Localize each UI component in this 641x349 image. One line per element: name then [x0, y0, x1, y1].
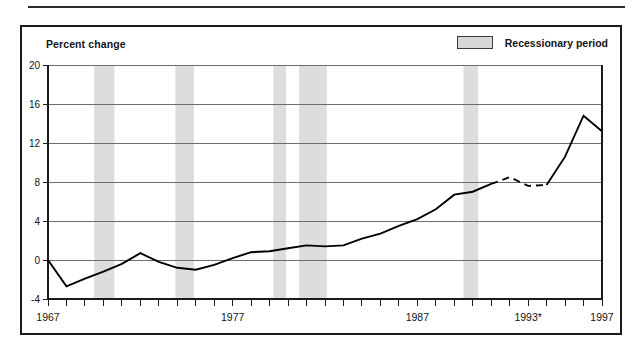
- series-line-solid-historical: [48, 184, 491, 286]
- x-axis-group: 1967197719871993*1997: [36, 299, 614, 323]
- y-tick-label-20: 20: [29, 60, 41, 71]
- x-tick-label-1993*: 1993*: [514, 311, 541, 323]
- y-tick-label-4: 4: [34, 216, 40, 227]
- chart-plot-area: 201612840-4 1967197719871993*1997: [22, 27, 624, 337]
- series-line-solid-recent: [547, 116, 602, 185]
- x-tick-label-1967: 1967: [36, 311, 60, 323]
- chart-page: Percent change Recessionary period 20161…: [0, 0, 641, 349]
- top-divider-rule: [28, 6, 625, 8]
- x-tick-label-1997: 1997: [590, 311, 614, 323]
- x-tick-label-1987: 1987: [406, 311, 430, 323]
- y-tick-label--4: -4: [31, 294, 40, 305]
- y-tick-label-12: 12: [29, 138, 41, 149]
- y-tick-label-0: 0: [34, 255, 40, 266]
- y-tick-label-8: 8: [34, 177, 40, 188]
- y-tick-label-16: 16: [29, 99, 41, 110]
- x-tick-label-1977: 1977: [221, 311, 245, 323]
- chart-frame: Percent change Recessionary period 20161…: [20, 25, 622, 335]
